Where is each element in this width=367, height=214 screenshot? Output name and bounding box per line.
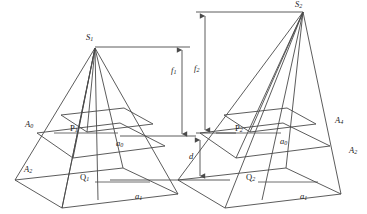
- label-side-far-right: a1: [300, 192, 307, 201]
- label-apex-right-sub: 2: [299, 3, 302, 9]
- label-plane-far-right: Q2: [246, 173, 255, 182]
- label-side-far-right-sub: 1: [304, 195, 307, 201]
- label-corner-left-upper: A0: [25, 120, 33, 129]
- label-corner-right-upper-sub: 4: [340, 119, 343, 125]
- label-side-near-left-sub: 0: [120, 142, 123, 148]
- label-focal-right: f2: [194, 64, 199, 73]
- label-plane-far-left-sub: 1: [86, 176, 89, 182]
- right-pyramid-group: [178, 12, 341, 208]
- right-far-plane: [178, 168, 341, 208]
- label-plane-far-left: Q1: [80, 173, 89, 182]
- label-corner-right-lower: A2: [349, 146, 357, 155]
- label-plane-near-left-sub: 1: [75, 127, 78, 133]
- label-focal-right-sub: 2: [196, 67, 199, 73]
- left-far-plane: [15, 168, 178, 208]
- label-focal-left: f1: [171, 66, 176, 75]
- label-plane-near-left: P1: [70, 124, 78, 133]
- label-side-far-left-sub: 1: [139, 195, 142, 201]
- left-pyramid-group: [15, 48, 178, 208]
- label-plane-near-right: P2: [235, 124, 243, 133]
- leader-lines: [54, 133, 318, 182]
- label-apex-left-sub: 1: [90, 36, 93, 42]
- label-side-near-left: a0: [116, 139, 123, 148]
- label-corner-right-lower-sub: 2: [354, 149, 357, 155]
- pyramid-diagram-svg: [0, 0, 367, 214]
- label-side-far-left: a1: [135, 192, 142, 201]
- label-side-near-right: a0: [280, 137, 287, 146]
- label-plane-near-right-sub: 2: [240, 127, 243, 133]
- measure-arrows: [182, 16, 205, 176]
- left-near-plane: [37, 123, 165, 158]
- label-separation: d: [189, 152, 193, 161]
- right-near-plane: [200, 123, 330, 158]
- label-separation-text: d: [189, 151, 193, 161]
- label-corner-left-lower-sub: 2: [29, 168, 32, 174]
- label-plane-far-right-sub: 2: [252, 176, 255, 182]
- label-apex-left: S1: [86, 33, 93, 42]
- label-corner-right-upper: A4: [335, 116, 343, 125]
- label-focal-left-sub: 1: [173, 69, 176, 75]
- label-corner-left-lower: A2: [24, 165, 32, 174]
- label-corner-left-upper-sub: 0: [30, 123, 33, 129]
- label-apex-right: S2: [295, 0, 302, 9]
- label-side-near-right-sub: 0: [284, 140, 287, 146]
- figure-root: S1 S2 f1 f2 d P1 Q1 P2 Q2 a0 a1 a0 a1 A0…: [0, 0, 367, 214]
